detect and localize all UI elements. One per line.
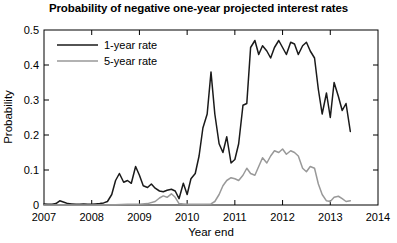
axes-group [44, 30, 378, 205]
x-tick-label: 2008 [79, 211, 103, 223]
y-tick-label: 0 [33, 199, 39, 211]
x-tick-label: 2013 [318, 211, 342, 223]
y-tick-label: 0.1 [24, 164, 39, 176]
y-tick-label: 0.4 [24, 59, 39, 71]
y-tick-labels: 00.10.20.30.40.5 [24, 24, 39, 211]
x-tick-labels: 20072008200920102011201220132014 [32, 211, 390, 223]
x-tick-label: 2012 [270, 211, 294, 223]
chart-figure: Probability of negative one-year project… [0, 0, 397, 243]
y-tick-label: 0.5 [24, 24, 39, 36]
line-chart-plot: 20072008200920102011201220132014 00.10.2… [0, 0, 397, 243]
legend-label-1-year-rate: 1-year rate [104, 39, 157, 51]
x-tick-label: 2014 [366, 211, 390, 223]
x-axis-title: Year end [188, 226, 234, 238]
x-tick-label: 2009 [127, 211, 151, 223]
y-axis-title: Probability [2, 90, 14, 144]
x-tick-label: 2010 [175, 211, 199, 223]
y-tick-label: 0.3 [24, 94, 39, 106]
x-tick-label: 2007 [32, 211, 56, 223]
x-tick-label: 2011 [223, 211, 247, 223]
plot-area-frame [44, 30, 378, 205]
y-tick-label: 0.2 [24, 129, 39, 141]
legend-label-5-year-rate: 5-year rate [104, 55, 157, 67]
